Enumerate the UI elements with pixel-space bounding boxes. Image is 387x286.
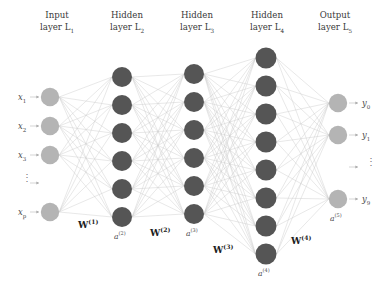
network-edge	[277, 103, 329, 114]
label-arrow-head	[355, 198, 358, 201]
activation-label-2: a(3)	[186, 227, 198, 238]
label-arrow-head	[355, 166, 358, 169]
layer-header-name: layer L2	[92, 22, 162, 37]
label-arrow-head	[36, 96, 39, 99]
neuron-node-L4	[256, 132, 277, 153]
neuron-node-L3	[184, 204, 204, 224]
network-edge	[59, 126, 112, 217]
network-edge	[59, 77, 112, 97]
network-edge	[59, 126, 112, 133]
layer-header-kind: Hidden	[92, 10, 162, 22]
neuron-node-L2	[112, 151, 132, 171]
neural-network-figure: Inputlayer L1Hiddenlayer L2Hiddenlayer L…	[0, 0, 387, 286]
network-edge	[132, 102, 184, 217]
network-edge	[204, 58, 256, 130]
network-edge	[277, 86, 329, 199]
network-edge	[59, 126, 112, 189]
neuron-node-L1	[41, 88, 59, 106]
weight-matrix-label-4: W(4)	[291, 234, 311, 246]
activation-label-3: a(4)	[258, 267, 270, 278]
network-edge	[204, 58, 256, 74]
neuron-node-L3	[184, 120, 204, 140]
label-arrow-head	[36, 211, 39, 214]
network-edge	[204, 58, 256, 186]
neuron-node-L4	[256, 244, 277, 265]
label-arrow-head	[36, 182, 39, 185]
network-edge	[59, 97, 112, 105]
layer-header-kind: Output	[300, 10, 370, 22]
neuron-node-L4	[256, 216, 277, 237]
layer-header-kind: Input	[22, 10, 92, 22]
layer-header-name: layer L5	[300, 22, 370, 37]
network-edge	[132, 158, 184, 217]
neuron-node-L3	[184, 148, 204, 168]
layer-header-3: Hiddenlayer L3	[162, 10, 232, 37]
neuron-node-L2	[112, 179, 132, 199]
network-edge	[59, 97, 112, 161]
neuron-node-L5	[329, 190, 347, 208]
neuron-node-L4	[256, 188, 277, 209]
network-edge	[277, 86, 329, 103]
activation-label-4: a(5)	[330, 212, 342, 223]
network-edge	[132, 74, 184, 77]
neuron-node-L3	[184, 64, 204, 84]
neuron-node-L1	[41, 117, 59, 135]
neuron-node-L3	[184, 176, 204, 196]
input-label-2: x2	[18, 121, 26, 133]
layer-header-name: layer L3	[162, 22, 232, 37]
label-arrow-head	[355, 102, 358, 105]
layer-header-1: Inputlayer L1	[22, 10, 92, 37]
layer-header-5: Outputlayer L5	[300, 10, 370, 37]
layer-header-2: Hiddenlayer L2	[92, 10, 162, 37]
layer-header-kind: Hidden	[162, 10, 232, 22]
label-arrow-head	[36, 154, 39, 157]
output-label-2: y1	[362, 130, 370, 142]
label-arrow-head	[36, 125, 39, 128]
output-ellipsis: ⋮	[366, 160, 376, 163]
network-edge	[132, 74, 184, 133]
network-graph	[0, 0, 387, 286]
network-edge	[204, 86, 256, 214]
neuron-node-L3	[184, 92, 204, 112]
input-label-3: x3	[18, 150, 26, 162]
weight-matrix-label-1: W(1)	[78, 218, 98, 230]
network-edge	[277, 198, 329, 199]
neuron-node-L2	[112, 67, 132, 87]
neuron-node-L1	[41, 203, 59, 221]
network-edge	[277, 103, 329, 170]
output-label-4: y9	[362, 194, 370, 206]
layer-header-name: layer L4	[232, 22, 302, 37]
neuron-node-L5	[329, 126, 347, 144]
layer-header-kind: Hidden	[232, 10, 302, 22]
input-label-1: x1	[18, 92, 26, 104]
network-edge	[59, 105, 112, 155]
network-edge	[59, 77, 112, 126]
label-arrow-head	[355, 134, 358, 137]
network-edge	[59, 212, 112, 217]
neuron-node-L4	[256, 48, 277, 69]
neuron-node-L4	[256, 76, 277, 97]
input-label-5: xp	[18, 207, 26, 219]
neuron-node-L1	[41, 146, 59, 164]
neuron-node-L2	[112, 207, 132, 227]
weight-matrix-label-3: W(3)	[213, 243, 233, 255]
input-ellipsis: ⋮	[22, 176, 32, 179]
neuron-node-L2	[112, 95, 132, 115]
network-edge	[277, 103, 329, 254]
network-edge	[132, 74, 184, 189]
layer-header-name: layer L1	[22, 22, 92, 37]
neuron-node-L4	[256, 104, 277, 125]
network-edge	[132, 214, 184, 217]
neuron-node-L2	[112, 123, 132, 143]
neuron-node-L4	[256, 160, 277, 181]
network-edge	[59, 155, 112, 217]
network-edge	[277, 114, 329, 199]
layer-header-4: Hiddenlayer L4	[232, 10, 302, 37]
activation-label-1: a(2)	[114, 230, 126, 241]
output-label-1: y0	[362, 98, 370, 110]
neuron-node-L5	[329, 94, 347, 112]
network-edge	[59, 105, 112, 212]
network-edge	[59, 161, 112, 212]
network-edge	[277, 135, 329, 198]
network-edge	[277, 86, 329, 135]
